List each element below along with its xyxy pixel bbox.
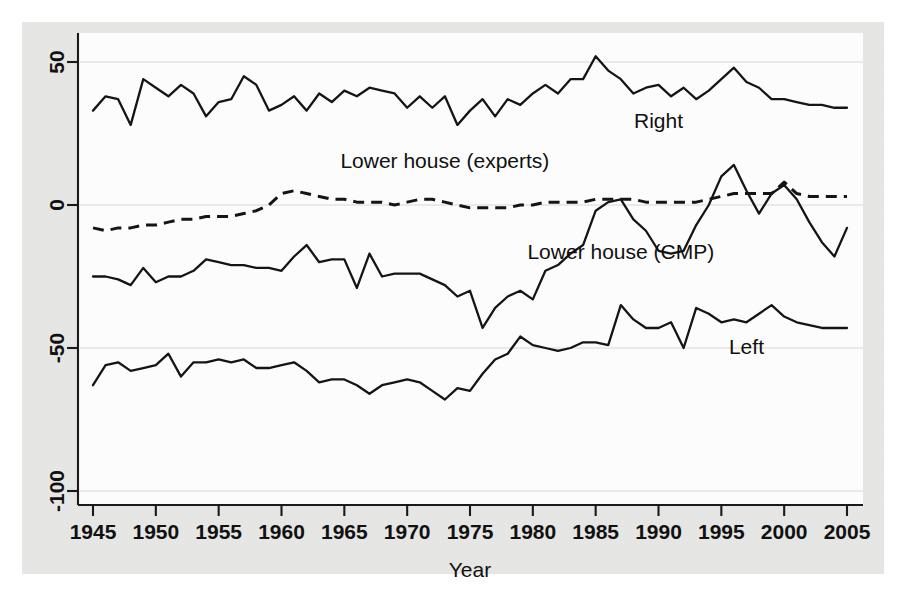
x-axis-ticks bbox=[93, 505, 847, 516]
x-tick-label: 1985 bbox=[572, 520, 619, 543]
series-label-lower-house-cmp: Lower house (CMP) bbox=[527, 240, 714, 263]
x-axis-title-group: Year bbox=[449, 558, 491, 581]
x-axis-title: Year bbox=[449, 558, 491, 581]
y-tick-label: -50 bbox=[45, 333, 68, 363]
series-annotation-labels: RightLower house (experts)Lower house (C… bbox=[340, 109, 764, 358]
y-tick-label: -100 bbox=[45, 470, 68, 512]
gridlines bbox=[80, 62, 863, 491]
x-tick-label: 2005 bbox=[824, 520, 871, 543]
series-line-lower-house-experts bbox=[93, 182, 847, 231]
x-axis-tick-labels: 1945195019551960196519701975198019851990… bbox=[70, 520, 871, 543]
series-line-right bbox=[93, 56, 847, 125]
x-tick-label: 2000 bbox=[761, 520, 808, 543]
x-tick-label: 1990 bbox=[635, 520, 682, 543]
y-tick-label: 0 bbox=[45, 199, 68, 211]
x-tick-label: 1975 bbox=[447, 520, 494, 543]
series-label-left: Left bbox=[729, 335, 764, 358]
x-tick-label: 1955 bbox=[195, 520, 242, 543]
x-tick-label: 1980 bbox=[509, 520, 556, 543]
series-line-lower-house-cmp bbox=[93, 165, 847, 328]
x-tick-label: 1970 bbox=[384, 520, 431, 543]
x-tick-label: 1950 bbox=[132, 520, 179, 543]
y-axis-ticks bbox=[67, 62, 78, 491]
y-tick-label: 50 bbox=[45, 50, 68, 73]
figure-container: 1945195019551960196519701975198019851990… bbox=[0, 0, 901, 603]
x-tick-label: 1960 bbox=[258, 520, 305, 543]
series-label-lower-house-experts: Lower house (experts) bbox=[340, 149, 549, 172]
x-tick-label: 1995 bbox=[698, 520, 745, 543]
y-axis-tick-labels: 500-50-100 bbox=[45, 50, 68, 512]
x-tick-label: 1945 bbox=[70, 520, 117, 543]
series-label-right: Right bbox=[634, 109, 683, 132]
x-tick-label: 1965 bbox=[321, 520, 368, 543]
line-chart: 1945195019551960196519701975198019851990… bbox=[0, 0, 901, 603]
